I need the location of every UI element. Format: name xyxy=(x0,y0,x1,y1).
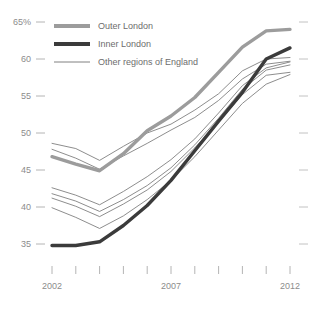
y-tick-label: 50 xyxy=(21,128,31,138)
legend-label: Inner London xyxy=(98,39,151,49)
y-tick-label: 40 xyxy=(21,202,31,212)
legend-label: Outer London xyxy=(98,21,153,31)
series-line xyxy=(52,75,290,229)
x-tick-label: 2012 xyxy=(280,281,300,291)
line-chart: 65%605550454035 200220072012 Outer Londo… xyxy=(0,0,319,311)
y-tick-label: 55 xyxy=(21,91,31,101)
series-line xyxy=(52,29,290,170)
chart-legend: Outer LondonInner LondonOther regions of… xyxy=(54,21,198,67)
legend-label: Other regions of England xyxy=(98,57,198,67)
x-tick-label: 2002 xyxy=(42,281,62,291)
x-tick-label: 2007 xyxy=(161,281,181,291)
y-tick-label: 35 xyxy=(21,239,31,249)
y-tick-label: 65% xyxy=(13,17,31,27)
series-group-other-regions xyxy=(52,58,290,229)
chart-canvas: 65%605550454035 200220072012 Outer Londo… xyxy=(0,0,319,311)
series-line xyxy=(52,48,290,246)
y-tick-label: 45 xyxy=(21,165,31,175)
y-axis-ticks-right xyxy=(299,22,308,244)
series-line xyxy=(52,65,290,212)
y-axis-ticks: 65%605550454035 xyxy=(13,17,45,249)
series-line xyxy=(52,62,290,205)
x-axis-ticks: 200220072012 xyxy=(42,266,300,291)
y-tick-label: 60 xyxy=(21,54,31,64)
